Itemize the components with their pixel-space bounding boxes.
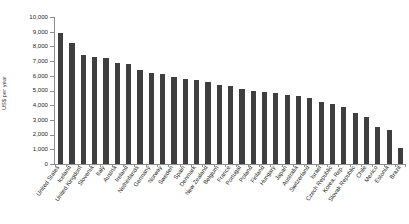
x-axis-labels: United StatesIcelandUnited KingdomSloven… [55, 167, 407, 223]
bar [228, 86, 233, 164]
bar-series [55, 17, 406, 164]
y-axis-title: US$ per year [1, 58, 7, 128]
y-tick-mark [50, 149, 54, 150]
y-tick-mark [50, 46, 54, 47]
y-tick-label: 0 [45, 160, 48, 167]
bar [307, 98, 312, 164]
bar-slot [146, 17, 157, 164]
y-tick-label: 10,000 [29, 13, 48, 20]
bar-slot [316, 17, 327, 164]
bar [58, 33, 63, 164]
y-tick-mark [50, 61, 54, 62]
bar [375, 127, 380, 164]
bar [115, 63, 120, 164]
y-tick-mark [50, 105, 54, 106]
bar [353, 113, 358, 164]
bar [126, 64, 131, 164]
bar-slot [168, 17, 179, 164]
bar-slot [384, 17, 395, 164]
bar [205, 82, 210, 164]
bar [296, 96, 301, 164]
y-tick-label: 5,000 [33, 86, 48, 93]
bar [319, 102, 324, 164]
bar [137, 70, 142, 164]
bar [273, 93, 278, 164]
bar-slot [395, 17, 406, 164]
bar [387, 130, 392, 164]
bar [183, 79, 188, 164]
bar [398, 148, 403, 164]
bar-slot [372, 17, 383, 164]
bar [341, 107, 346, 164]
bar-slot [225, 17, 236, 164]
bar-slot [214, 17, 225, 164]
y-tick-label: 7,000 [33, 57, 48, 64]
bar-slot [180, 17, 191, 164]
bar-slot [66, 17, 77, 164]
y-tick-mark [50, 91, 54, 92]
y-tick-label: 8,000 [33, 42, 48, 49]
bar [194, 80, 199, 164]
y-tick-mark [50, 17, 54, 18]
bar-slot [248, 17, 259, 164]
bar-slot [259, 17, 270, 164]
bar-slot [78, 17, 89, 164]
bar-slot [55, 17, 66, 164]
bar [364, 117, 369, 164]
x-label-slot: Brazil [396, 167, 407, 223]
chart-top-margin [0, 0, 409, 7]
y-tick-label: 1,000 [33, 145, 48, 152]
y-tick-label: 6,000 [33, 72, 48, 79]
bar [103, 58, 108, 164]
bar-slot [338, 17, 349, 164]
bar-slot [236, 17, 247, 164]
y-tick-label: 3,000 [33, 116, 48, 123]
bar-slot [282, 17, 293, 164]
bar [81, 55, 86, 164]
bar-slot [293, 17, 304, 164]
bar-chart: US$ per year 01,0002,0003,0004,0005,0006… [0, 0, 409, 224]
y-tick-mark [50, 120, 54, 121]
bar [92, 57, 97, 164]
bar-slot [134, 17, 145, 164]
bar-slot [157, 17, 168, 164]
bar-slot [361, 17, 372, 164]
bar-slot [304, 17, 315, 164]
bar [69, 43, 74, 164]
y-tick-mark [50, 135, 54, 136]
bar [285, 95, 290, 164]
bar-slot [270, 17, 281, 164]
bar-slot [112, 17, 123, 164]
y-tick-label: 4,000 [33, 101, 48, 108]
bar [239, 89, 244, 164]
y-tick-label: 2,000 [33, 130, 48, 137]
y-tick-label: 9,000 [33, 28, 48, 35]
bar-slot [89, 17, 100, 164]
bar-slot [100, 17, 111, 164]
bar [330, 104, 335, 164]
bar-slot [202, 17, 213, 164]
bar [171, 77, 176, 164]
bar [251, 91, 256, 165]
bar-slot [350, 17, 361, 164]
bar-slot [191, 17, 202, 164]
y-tick-mark [50, 32, 54, 33]
bar-slot [327, 17, 338, 164]
y-tick-mark [50, 76, 54, 77]
bar-slot [123, 17, 134, 164]
bar [262, 92, 267, 164]
bar [217, 85, 222, 164]
y-tick-mark [50, 164, 54, 165]
plot-area: 01,0002,0003,0004,0005,0006,0007,0008,00… [54, 17, 406, 164]
bar [160, 74, 165, 164]
bar [149, 73, 154, 164]
